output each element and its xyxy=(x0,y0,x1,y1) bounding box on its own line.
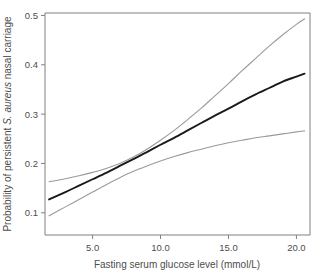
y-tick-label: 0.3 xyxy=(25,109,38,120)
x-axis-ticks: 5.010.015.020.0 xyxy=(86,235,306,253)
y-axis-title: Probability of persistent S. aureus nasa… xyxy=(2,16,13,232)
chart-series-group xyxy=(49,19,304,216)
y-tick-label: 0.1 xyxy=(25,207,38,218)
chart-canvas: 0.10.20.30.40.5 5.010.015.020.0 Fasting … xyxy=(0,0,321,275)
x-axis-title: Fasting serum glucose level (mmol/L) xyxy=(94,259,260,270)
chart-figure: 0.10.20.30.40.5 5.010.015.020.0 Fasting … xyxy=(0,0,321,275)
y-tick-label: 0.5 xyxy=(25,10,38,21)
x-tick-label: 10.0 xyxy=(151,242,170,253)
plot-box-border xyxy=(45,13,310,235)
y-axis-title-suffix: nasal carriage xyxy=(2,16,13,82)
y-axis-title-prefix: Probability of persistent xyxy=(2,125,13,232)
x-tick-label: 5.0 xyxy=(86,242,99,253)
x-tick-label: 15.0 xyxy=(219,242,238,253)
y-tick-label: 0.4 xyxy=(25,59,38,70)
plot-frame xyxy=(45,13,310,235)
y-axis-title-species: S. aureus xyxy=(2,82,13,125)
x-tick-label: 20.0 xyxy=(287,242,306,253)
y-tick-label: 0.2 xyxy=(25,158,38,169)
y-axis-ticks: 0.10.20.30.40.5 xyxy=(25,10,45,218)
confidence-band-curve xyxy=(49,19,304,182)
